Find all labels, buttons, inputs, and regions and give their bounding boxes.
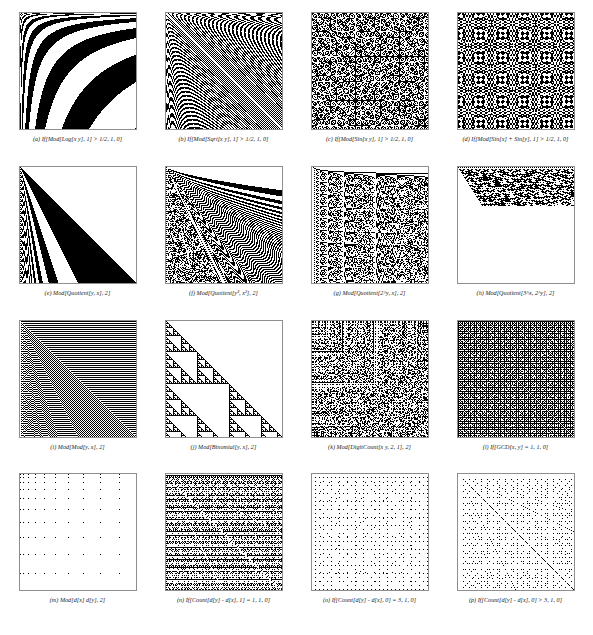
panel-e: (e) Mod[Quotient[y, x], 2] [8,166,147,317]
plot-image-i [19,320,137,438]
panel-caption: (f) Mod[Quotient[y³, x²], 2] [189,290,258,297]
plot-image-a [19,12,137,130]
plot-canvas [20,167,136,283]
panel-k: (k) Mod[DigitCount[x y, 2, 1], 2] [300,320,439,471]
plot-image-l [457,320,575,438]
panel-caption: (c) If[Mod[Sin[x y], 1] > 1/2, 1, 0] [326,136,413,143]
plot-image-o [311,473,429,591]
panel-caption: (g) Mod[Quotient[2^y, x], 2] [334,290,406,297]
panel-caption: (e) Mod[Quotient[y, x], 2] [45,290,111,297]
plot-image-f [165,166,283,284]
plot-canvas [166,13,282,129]
plot-image-d [457,12,575,130]
plot-canvas [166,167,282,283]
panel-p: (p) If[Count[d[y] - d[x], 0] > 3, 1, 0] [446,473,585,624]
plot-canvas [20,321,136,437]
panel-d: (d) If[Mod[Sin[x] + Sin[y], 1] > 1/2, 1,… [446,12,585,163]
plot-canvas [312,167,428,283]
panel-m: (m) Mod[d[x] d[y], 2] [8,473,147,624]
plot-image-e [19,166,137,284]
panel-caption: (j) Mod[Binomial[y, x], 2] [191,444,257,451]
panel-caption: (i) Mod[Mod[y, x], 2] [50,444,104,451]
plot-image-h [457,166,575,284]
panel-caption: (h) Mod[Quotient[3^x, 2^y], 2] [477,290,555,297]
panel-n: (n) If[Count[d[y] - d[x], 1] = 1, 1, 0] [154,473,293,624]
plot-canvas [458,474,574,590]
panel-i: (i) Mod[Mod[y, x], 2] [8,320,147,471]
plot-canvas [458,13,574,129]
plot-image-m [19,473,137,591]
panel-caption: (k) Mod[DigitCount[x y, 2, 1], 2] [328,444,411,451]
plot-canvas [20,474,136,590]
panel-c: (c) If[Mod[Sin[x y], 1] > 1/2, 1, 0] [300,12,439,163]
panel-a: (a) If[Mod[Log[x y], 1] > 1/2, 1, 0] [8,12,147,163]
panel-b: (b) If[Mod[Sqrt[x y], 1] > 1/2, 1, 0] [154,12,293,163]
plot-canvas [458,167,574,283]
plot-image-g [311,166,429,284]
panel-caption: (o) If[Count[d[y] - d[x], 0] = 3, 1, 0] [323,597,416,604]
plot-canvas [166,321,282,437]
plot-canvas [458,321,574,437]
panel-caption: (n) If[Count[d[y] - d[x], 1] = 1, 1, 0] [177,597,270,604]
figure-panel-grid: (a) If[Mod[Log[x y], 1] > 1/2, 1, 0](b) … [0,0,593,635]
plot-canvas [312,321,428,437]
panel-l: (l) If[GCD[x, y] = 1, 1, 0] [446,320,585,471]
plot-image-b [165,12,283,130]
panel-caption: (b) If[Mod[Sqrt[x y], 1] > 1/2, 1, 0] [179,136,269,143]
plot-image-p [457,473,575,591]
panel-grid: (a) If[Mod[Log[x y], 1] > 1/2, 1, 0](b) … [8,12,585,624]
panel-o: (o) If[Count[d[y] - d[x], 0] = 3, 1, 0] [300,473,439,624]
plot-image-k [311,320,429,438]
panel-j: (j) Mod[Binomial[y, x], 2] [154,320,293,471]
plot-image-c [311,12,429,130]
panel-f: (f) Mod[Quotient[y³, x²], 2] [154,166,293,317]
plot-canvas [166,474,282,590]
panel-caption: (p) If[Count[d[y] - d[x], 0] > 3, 1, 0] [469,597,562,604]
plot-canvas [312,13,428,129]
panel-h: (h) Mod[Quotient[3^x, 2^y], 2] [446,166,585,317]
panel-caption: (d) If[Mod[Sin[x] + Sin[y], 1] > 1/2, 1,… [462,136,568,143]
panel-g: (g) Mod[Quotient[2^y, x], 2] [300,166,439,317]
panel-caption: (m) Mod[d[x] d[y], 2] [50,597,106,604]
plot-canvas [312,474,428,590]
plot-image-j [165,320,283,438]
panel-caption: (l) If[GCD[x, y] = 1, 1, 0] [483,444,549,451]
plot-image-n [165,473,283,591]
panel-caption: (a) If[Mod[Log[x y], 1] > 1/2, 1, 0] [33,136,122,143]
plot-canvas [20,13,136,129]
